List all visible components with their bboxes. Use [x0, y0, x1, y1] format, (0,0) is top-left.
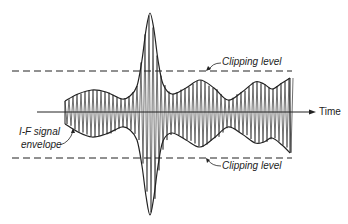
time-axis-label: Time: [319, 106, 341, 117]
carrier-lines: [65, 15, 293, 212]
clipping-bottom-leader-arrow: [208, 160, 221, 166]
if-signal-diagram: [0, 0, 348, 224]
time-axis-arrowhead-icon: [309, 110, 316, 115]
envelope-label-line1: I-F signal: [19, 126, 60, 137]
clipping-level-bottom-label: Clipping level: [222, 160, 281, 171]
clipping-level-top-label: Clipping level: [222, 56, 281, 67]
clipping-top-arrowhead-icon: [206, 66, 211, 71]
envelope-label-line2: envelope: [21, 139, 62, 150]
